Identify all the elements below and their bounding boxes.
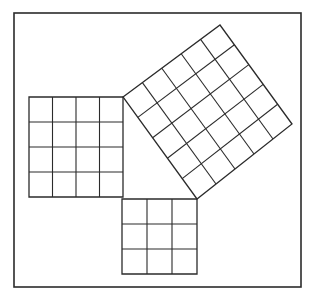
- pythagorean-diagram: [0, 0, 315, 298]
- canvas-background: [0, 0, 315, 298]
- diagram-canvas: [0, 0, 315, 298]
